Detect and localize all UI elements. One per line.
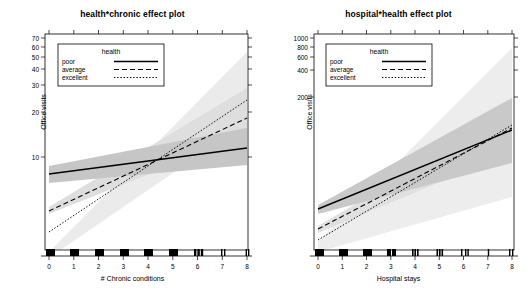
legend-label-average: average [330,66,354,74]
x-tick-label: 2 [97,263,101,270]
y-ticks-right [310,38,314,97]
y-tick-label: 40 [32,66,40,73]
x-tick-label: 1 [340,263,344,270]
x-tick-label: 3 [389,263,393,270]
x-tick-label: 7 [486,263,490,270]
y-tick-label: 60 [32,44,40,51]
y-tick-label: 70 [32,35,40,42]
y-tick-label: 20 [32,109,40,116]
legend-title-right: health [370,48,389,55]
effect-plots-figure: health*chronic effect plot Office visits… [0,0,531,292]
y-tick-label: 1000 [294,35,309,42]
legend-label-excellent: excellent [330,74,356,81]
x-tick-label: 7 [220,263,224,270]
legend-left[interactable]: health poor average excellent [58,44,164,86]
x-tick-label: 0 [316,263,320,270]
plot-canvas-left: 70 60 50 40 30 20 10 [0,0,265,292]
y-tick-label: 10 [32,154,40,161]
y-tick-label: 30 [32,82,40,89]
x-tick-label: 8 [510,263,514,270]
x-tick-label: 0 [47,263,51,270]
panel-hospital-health: hospital*health effect plot Office visit… [266,0,531,292]
y-ticks-right-mirror-left [248,38,252,157]
x-tick-label: 3 [121,263,125,270]
legend-label-poor: poor [62,58,76,66]
x-tick-label: 4 [146,263,150,270]
y-tick-label: 50 [32,54,40,61]
y-tick-label: 800 [297,44,308,51]
top-ticks-right [318,30,512,34]
y-tick-label: 600 [297,54,308,61]
x-ticks-right [318,256,512,260]
legend-right[interactable]: health poor average excellent [326,44,432,86]
y-tick-label: 200 [297,94,308,101]
x-tick-label: 8 [245,263,249,270]
x-tick-label: 5 [171,263,175,270]
x-tick-label: 5 [437,263,441,270]
x-ticks-left [49,256,247,260]
x-tick-label: 4 [413,263,417,270]
y-ticks-right-mirror-right [514,38,518,97]
panel-health-chronic: health*chronic effect plot Office visits… [0,0,265,292]
legend-title-left: health [102,48,121,55]
x-tick-label: 6 [196,263,200,270]
x-tick-label: 1 [72,263,76,270]
y-tick-label: 400 [297,67,308,74]
top-ticks-left [49,30,247,34]
y-ticks-left [41,38,45,157]
plot-canvas-right: 1000 800 600 400 200 [266,0,531,292]
legend-label-average: average [62,66,86,74]
legend-label-excellent: excellent [62,74,88,81]
legend-label-poor: poor [330,58,344,66]
x-tick-label: 2 [365,263,369,270]
x-tick-label: 6 [462,263,466,270]
